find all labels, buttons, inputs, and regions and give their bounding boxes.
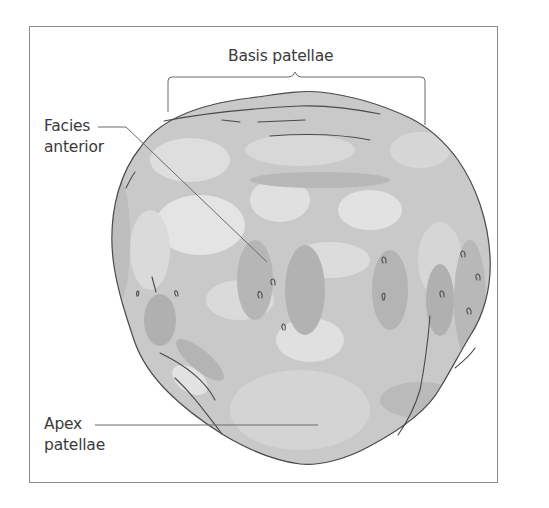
label-text: Basis patellae: [228, 47, 333, 65]
label-facies-anterior: Facies anterior: [44, 116, 104, 158]
label-text-line1: Facies: [44, 116, 104, 137]
label-text-line2: anterior: [44, 137, 104, 158]
label-basis-patellae: Basis patellae: [228, 46, 333, 67]
label-apex-patellae: Apex patellae: [44, 414, 105, 456]
label-text-line2: patellae: [44, 435, 105, 456]
label-text-line1: Apex: [44, 414, 105, 435]
patella-bone: [110, 91, 490, 464]
